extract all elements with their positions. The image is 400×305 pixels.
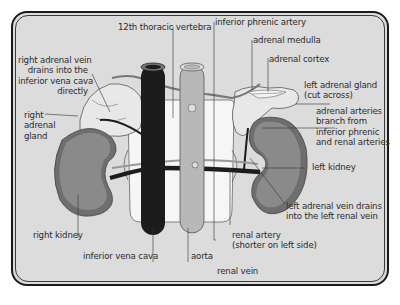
label-adrenal-arteries-line2: branch from bbox=[316, 116, 390, 126]
label-left-adrenal-vein-line1: left adrenal vein drains bbox=[286, 201, 382, 211]
label-right-adrenal-gland-line3: gland bbox=[24, 131, 55, 141]
label-right-adrenal-gland-line1: right bbox=[24, 110, 55, 120]
label-adrenal-arteries-line4: and renal arteries bbox=[316, 137, 390, 147]
label-right-adrenal-vein: right adrenal vein drains into the infer… bbox=[18, 55, 88, 97]
label-renal-artery: renal artery (shorter on left side) bbox=[232, 230, 317, 251]
label-left-adrenal-vein: left adrenal vein drains into the left r… bbox=[286, 201, 382, 222]
label-left-kidney: left kidney bbox=[312, 162, 356, 172]
label-aorta: aorta bbox=[191, 251, 213, 261]
label-adrenal-arteries-line3: inferior phrenic bbox=[316, 127, 390, 137]
label-left-adrenal-gland-line1: left adrenal gland bbox=[304, 80, 377, 90]
label-inferior-vena-cava: inferior vena cava bbox=[83, 251, 158, 261]
label-right-adrenal-gland: right adrenal gland bbox=[24, 110, 55, 141]
label-adrenal-arteries: adrenal arteries branch from inferior ph… bbox=[316, 106, 390, 148]
label-right-adrenal-vein-line3: inferior vena cava bbox=[18, 76, 88, 86]
label-left-adrenal-gland-line2: (cut across) bbox=[304, 90, 377, 100]
label-left-adrenal-vein-line2: into the left renal vein bbox=[286, 211, 382, 221]
label-renal-artery-line1: renal artery bbox=[232, 230, 317, 240]
label-adrenal-medulla: adrenal medulla bbox=[253, 35, 321, 45]
label-renal-artery-line2: (shorter on left side) bbox=[232, 240, 317, 250]
label-right-adrenal-vein-line4: directly bbox=[18, 86, 88, 96]
label-right-adrenal-gland-line2: adrenal bbox=[24, 120, 55, 130]
label-right-adrenal-vein-line1: right adrenal vein bbox=[18, 55, 88, 65]
label-left-adrenal-gland: left adrenal gland (cut across) bbox=[304, 80, 377, 101]
left-kidney bbox=[249, 117, 307, 214]
label-inferior-phrenic-artery: inferior phrenic artery bbox=[215, 17, 306, 27]
label-right-adrenal-vein-line2: drains into the bbox=[18, 65, 88, 75]
label-adrenal-arteries-line1: adrenal arteries bbox=[316, 106, 390, 116]
label-adrenal-cortex: adrenal cortex bbox=[269, 54, 329, 64]
label-right-kidney: right kidney bbox=[33, 230, 83, 240]
aorta bbox=[180, 63, 204, 233]
inferior-vena-cava bbox=[141, 63, 165, 235]
label-renal-vein: renal vein bbox=[217, 266, 258, 276]
label-12th-thoracic-vertebra: 12th thoracic vertebra bbox=[118, 22, 211, 32]
right-kidney bbox=[54, 128, 116, 216]
